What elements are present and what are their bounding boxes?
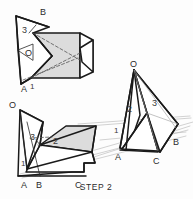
tetra-edge-C-base — [158, 151, 160, 152]
label-A-top-left: A — [21, 84, 27, 94]
label-B-bottom-left: B — [36, 180, 42, 190]
view-right: O 2 3 1 A C B — [114, 59, 179, 166]
label-2-bottom-left: 2 — [53, 136, 58, 146]
label-B-right: B — [173, 137, 179, 147]
label-1-top-left: 1 — [30, 82, 35, 91]
geometry-diagram: B 3 O A 1 — [0, 0, 193, 199]
view-top-left: B 3 O A 1 — [16, 7, 93, 94]
label-O-top-left: O — [25, 48, 32, 58]
label-1-right: 1 — [114, 126, 119, 135]
label-O-bottom-left: O — [9, 100, 16, 110]
label-3-right: 3 — [152, 98, 157, 108]
figure-root: B 3 O A 1 — [0, 0, 193, 199]
label-3-bottom-left: 3 — [30, 132, 35, 142]
step-caption: STEP 2 — [80, 182, 113, 192]
view-bottom-left: O 3 2 1 A B C — [9, 100, 96, 190]
label-A-bottom-left: A — [21, 180, 27, 190]
label-C-right: C — [153, 156, 160, 166]
label-A-right: A — [115, 152, 121, 162]
label-1-bottom-left: 1 — [21, 159, 26, 168]
label-B-top-left: B — [40, 7, 46, 17]
label-O-right: O — [130, 59, 137, 69]
label-2-right: 2 — [127, 104, 132, 114]
label-3-top-left: 3 — [22, 25, 27, 35]
